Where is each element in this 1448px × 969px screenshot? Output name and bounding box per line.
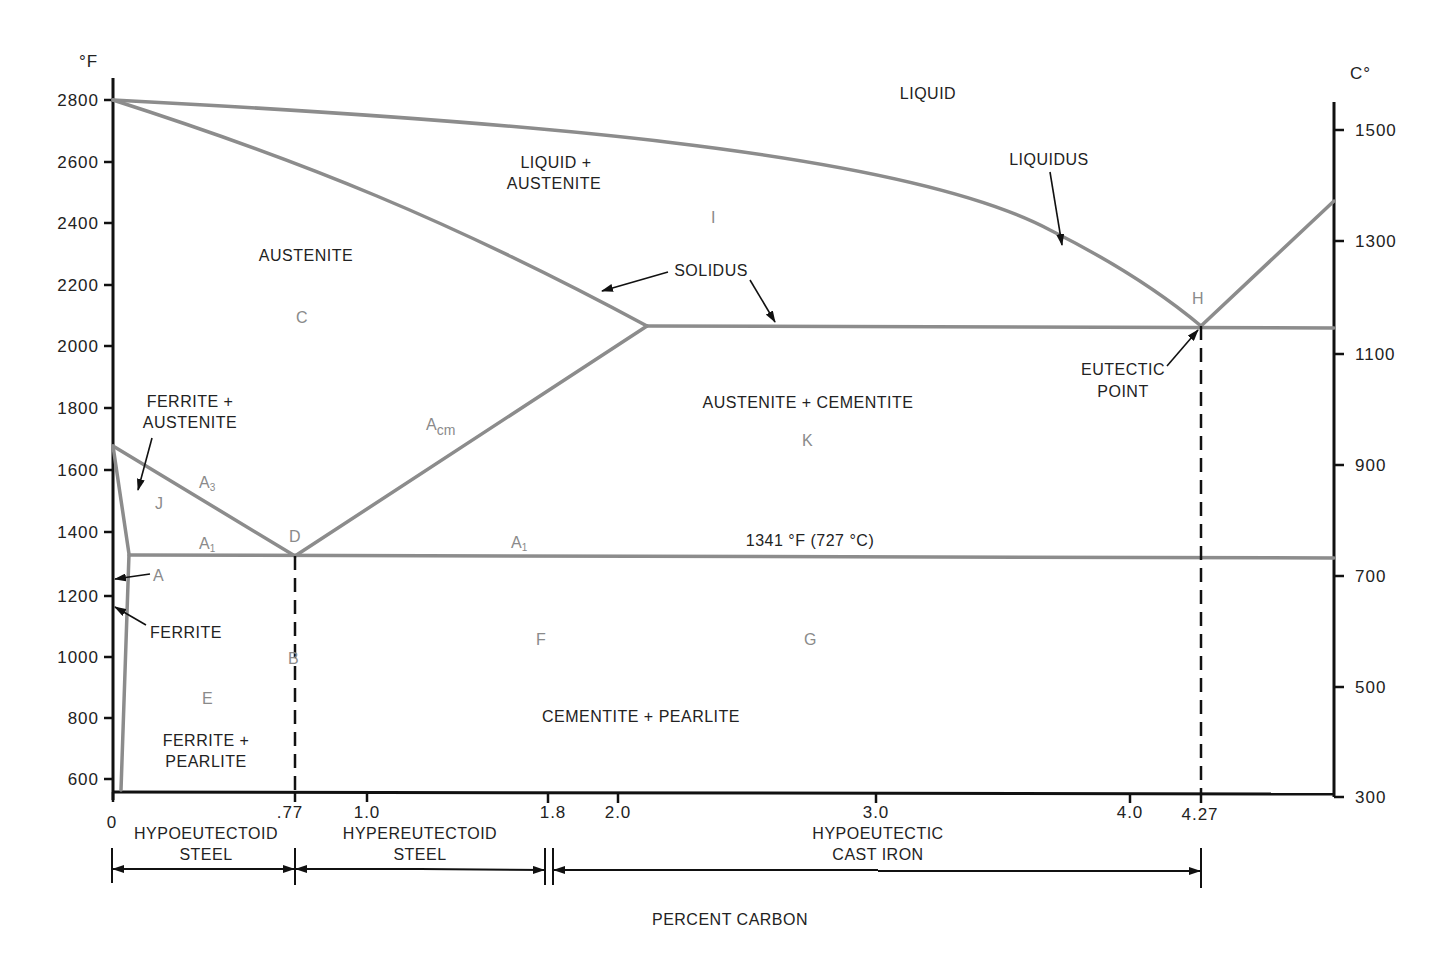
region-austenite: AUSTENITE <box>259 247 353 264</box>
x-tick-0: 0 <box>107 813 117 832</box>
eutectic-label-line2: POINT <box>1097 383 1148 400</box>
x-tick-2-0: 2.0 <box>605 803 632 822</box>
point-letter-i: I <box>711 209 715 226</box>
right-axis: C° 1500 1300 1100 900 700 500 300 <box>1334 64 1397 807</box>
liquidus-label: LIQUIDUS <box>1009 151 1089 168</box>
ferrite-arrow <box>115 607 146 625</box>
phase-lines <box>113 100 1334 790</box>
a1-label-left: A1 <box>199 535 216 554</box>
region-ferrite-pearlite-line2: PEARLITE <box>165 753 246 770</box>
region-liquid-austenite-line1: LIQUID + <box>520 154 591 171</box>
right-axis-unit: C° <box>1350 64 1371 83</box>
y-tick-2200: 2200 <box>57 276 99 295</box>
region-liquid-austenite-line2: AUSTENITE <box>507 175 601 192</box>
point-letter-b: B <box>288 650 299 667</box>
y-tick-800: 800 <box>68 709 99 728</box>
x-axis-title: PERCENT CARBON <box>652 911 808 928</box>
svg-text:HYPEREUTECTOID: HYPEREUTECTOID <box>343 825 497 842</box>
x-tick-1-0: 1.0 <box>354 803 381 822</box>
y-tick-1400: 1400 <box>57 523 99 542</box>
x-tick-3-0: 3.0 <box>863 803 890 822</box>
solidus-arrow-right <box>750 280 775 322</box>
x-tick-4-27: 4.27 <box>1181 805 1218 824</box>
range-hypereutectoid-steel: HYPEREUTECTOID STEEL <box>343 825 497 863</box>
bottom-axis: 0 .77 1.0 1.8 2.0 3.0 4.0 4.27 <box>107 792 1334 832</box>
y-tick-c-700: 700 <box>1355 567 1386 586</box>
y-tick-c-1500: 1500 <box>1355 121 1397 140</box>
range-hypoeutectic-cast-iron: HYPOEUTECTIC CAST IRON <box>812 825 943 863</box>
y-tick-c-1300: 1300 <box>1355 232 1397 251</box>
x-tick-4-0: 4.0 <box>1117 803 1144 822</box>
point-letter-k: K <box>802 432 813 449</box>
liquidus-line <box>113 100 1201 326</box>
y-tick-c-1100: 1100 <box>1355 345 1396 364</box>
point-letter-h: H <box>1192 290 1204 307</box>
range-dimension-lines <box>112 848 1201 888</box>
liquidus-right-line <box>1201 201 1334 326</box>
svg-text:HYPOEUTECTIC: HYPOEUTECTIC <box>812 825 943 842</box>
acm-line <box>295 326 647 556</box>
a1-label-mid: A1 <box>511 534 528 553</box>
region-ferrite: FERRITE <box>150 624 222 641</box>
left-axis-unit: °F <box>79 52 98 71</box>
ferrite-boundary-line <box>113 446 129 790</box>
region-ferrite-austenite-line2: AUSTENITE <box>143 414 237 431</box>
point-letter-d: D <box>289 528 301 545</box>
y-tick-1000: 1000 <box>57 648 99 667</box>
svg-text:CAST IRON: CAST IRON <box>832 846 923 863</box>
point-letter-a: A <box>153 567 164 584</box>
y-tick-2000: 2000 <box>57 337 99 356</box>
region-austenite-cementite: AUSTENITE + CEMENTITE <box>703 394 914 411</box>
a1-line <box>129 555 1334 558</box>
y-tick-c-900: 900 <box>1355 456 1386 475</box>
y-tick-1600: 1600 <box>57 461 99 480</box>
point-letter-j: J <box>155 495 163 512</box>
solidus-label: SOLIDUS <box>674 262 748 279</box>
acm-label: Acm <box>426 416 455 438</box>
eutectoid-temp-label: 1341 °F (727 °C) <box>746 532 874 549</box>
point-letter-f: F <box>536 631 546 648</box>
eutectic-label-line1: EUTECTIC <box>1081 361 1165 378</box>
y-tick-2600: 2600 <box>57 153 99 172</box>
region-liquid: LIQUID <box>900 85 956 102</box>
x-tick-077: .77 <box>277 803 304 822</box>
svg-text:STEEL: STEEL <box>179 846 232 863</box>
y-tick-600: 600 <box>68 770 99 789</box>
y-tick-1800: 1800 <box>57 399 99 418</box>
x-tick-1-8: 1.8 <box>540 803 567 822</box>
point-letter-e: E <box>202 690 213 707</box>
eutectic-arrow <box>1167 330 1198 366</box>
solidus-arrow-left <box>602 272 668 291</box>
y-tick-2800: 2800 <box>57 91 99 110</box>
left-axis: °F 2800 2600 2400 2200 2000 1800 1600 14… <box>57 52 113 800</box>
range-hypoeutectoid-steel: HYPOEUTECTOID STEEL <box>134 825 278 863</box>
y-tick-c-300: 300 <box>1355 788 1386 807</box>
y-tick-1200: 1200 <box>57 587 99 606</box>
svg-text:HYPOEUTECTOID: HYPOEUTECTOID <box>134 825 278 842</box>
a3-label: A3 <box>199 474 216 493</box>
y-tick-c-500: 500 <box>1355 678 1386 697</box>
region-ferrite-austenite-line1: FERRITE + <box>147 393 234 410</box>
region-cementite-pearlite: CEMENTITE + PEARLITE <box>542 708 740 725</box>
point-letter-g: G <box>804 631 816 648</box>
solidus-line <box>113 100 647 326</box>
eutectic-line <box>647 326 1334 328</box>
y-tick-2400: 2400 <box>57 214 99 233</box>
point-a-arrow <box>115 574 150 579</box>
svg-text:STEEL: STEEL <box>393 846 446 863</box>
point-letter-c: C <box>296 309 308 326</box>
region-ferrite-pearlite-line1: FERRITE + <box>163 732 250 749</box>
iron-carbon-phase-diagram: °F 2800 2600 2400 2200 2000 1800 1600 14… <box>0 0 1448 969</box>
